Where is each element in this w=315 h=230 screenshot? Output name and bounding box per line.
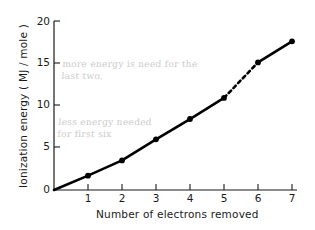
- plot-area: [0, 0, 315, 230]
- chart-figure: Ionization energy ( MJ / mole ) Number o…: [0, 0, 315, 230]
- data-point-7: [289, 38, 295, 44]
- data-point-1: [85, 173, 91, 179]
- data-point-5: [221, 95, 227, 101]
- data-point-4: [187, 116, 193, 122]
- series-solid-segment-last: [258, 41, 292, 62]
- series-solid-segment-first: [54, 98, 224, 190]
- data-point-6: [255, 60, 261, 66]
- data-point-2: [119, 158, 125, 164]
- data-point-3: [153, 136, 159, 142]
- data-series-ionization-energy: [54, 38, 295, 190]
- series-dashed-segment: [224, 62, 258, 97]
